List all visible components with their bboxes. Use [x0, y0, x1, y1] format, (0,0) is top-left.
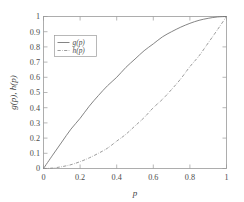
x-tick-label: 0.8	[185, 173, 195, 182]
y-tick-label: 0.3	[30, 119, 40, 128]
x-tick-label: 0.4	[112, 173, 122, 182]
chart-figure: 0 0.1 0.2 0.3 0.4 0.5 0.6 0.7 0.8 0.9 1	[0, 0, 244, 202]
y-tick-label: 0.7	[30, 58, 40, 67]
y-tick-labels: 0 0.1 0.2 0.3 0.4 0.5 0.6 0.7 0.8 0.9 1	[30, 12, 40, 173]
y-tick-label: 0.6	[30, 73, 40, 82]
y-tick-label: 0.9	[30, 28, 40, 37]
y-tick-label: 0.8	[30, 43, 40, 52]
y-tick-label: 1	[36, 12, 40, 21]
legend: g(p) h(p)	[55, 36, 97, 57]
x-tick-label: 0.2	[75, 173, 85, 182]
y-tick-label: 0.2	[30, 134, 40, 143]
x-tick-label: 0	[41, 173, 45, 182]
x-axis-label: p	[132, 188, 138, 198]
y-tick-label: 0	[36, 164, 40, 173]
plot-svg: 0 0.1 0.2 0.3 0.4 0.5 0.6 0.7 0.8 0.9 1	[0, 0, 244, 202]
y-tick-label: 0.5	[30, 88, 40, 97]
x-tick-label: 1	[224, 173, 228, 182]
y-tick-label: 0.1	[30, 149, 40, 158]
y-tick-label: 0.4	[30, 104, 40, 113]
x-tick-label: 0.6	[148, 173, 158, 182]
legend-label-h: h(p)	[73, 46, 86, 55]
y-axis-label: g(p), h(p)	[8, 75, 18, 110]
